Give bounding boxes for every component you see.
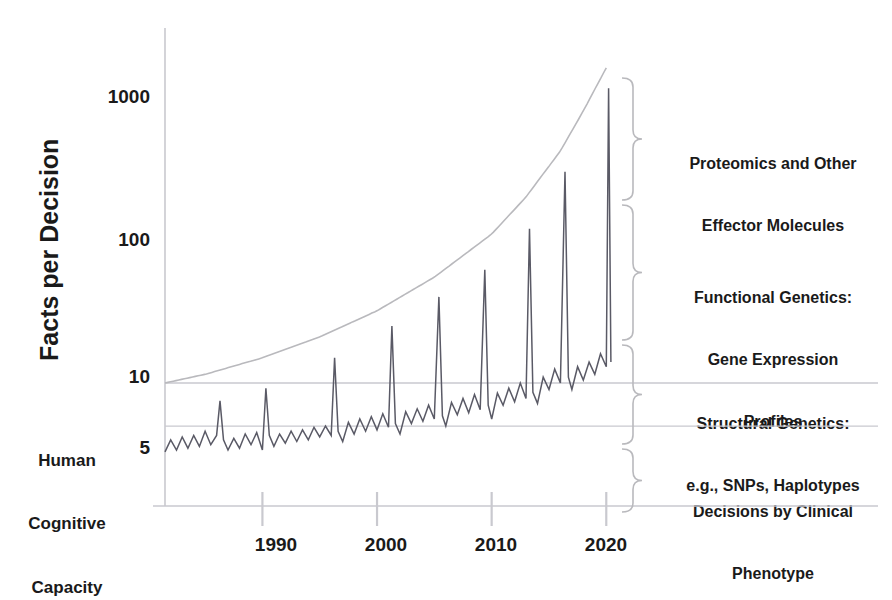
envelope-curve [165,68,606,383]
brace-structural [622,345,642,444]
brace-functional [622,205,642,340]
x-tick-marks [262,492,606,526]
brace-proteomics [622,78,642,200]
hcc-line-3: Capacity [0,577,136,598]
data-series-line [165,88,611,452]
brace-clinical [622,449,642,512]
annotation-braces [622,78,642,512]
grid-group [165,383,878,426]
